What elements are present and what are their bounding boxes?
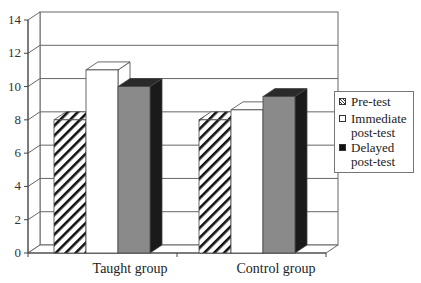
y-tick-label: 14 — [8, 12, 22, 27]
black-swatch-icon — [339, 144, 346, 151]
bar-side — [295, 89, 307, 253]
y-tick-label: 0 — [15, 245, 22, 260]
y-tick-label: 10 — [8, 79, 21, 94]
bar-front — [54, 120, 86, 253]
y-tick-label: 4 — [15, 178, 22, 193]
bar-delayed-post-test-taught — [118, 79, 162, 253]
legend: Pre-test Immediate post-test Delayed pos… — [334, 91, 414, 173]
y-tick-label: 12 — [8, 45, 21, 60]
bar-front — [263, 97, 295, 253]
bar-front — [199, 120, 231, 253]
bar-front — [86, 70, 118, 253]
plot-area — [24, 12, 338, 257]
bar-side — [150, 79, 162, 253]
hatched-swatch-icon — [339, 98, 346, 105]
y-tick-label: 8 — [15, 112, 22, 127]
side-wall — [28, 12, 40, 253]
bar-delayed-post-test-control — [263, 89, 307, 253]
y-tick-label: 2 — [15, 212, 22, 227]
category-label-control: Control group — [237, 261, 316, 276]
category-label-taught: Taught group — [93, 261, 168, 276]
white-swatch-icon — [339, 115, 346, 122]
bar-front — [118, 87, 150, 253]
y-axis-labels: 02468101214 — [8, 12, 22, 260]
bar-front — [231, 110, 263, 253]
y-tick-label: 6 — [15, 145, 22, 160]
